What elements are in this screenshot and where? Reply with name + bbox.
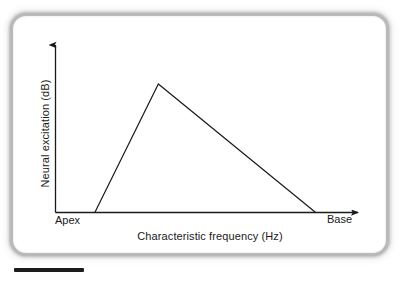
x-axis-apex-label: Apex <box>55 215 80 226</box>
scale-bar <box>14 268 84 272</box>
figure-page: Neural excitation (dB) Characteristic fr… <box>0 0 405 281</box>
x-axis-base-label: Base <box>327 214 352 225</box>
excitation-curve <box>95 84 316 213</box>
y-axis-label: Neural excitation (dB) <box>40 59 51 209</box>
x-axis-label: Characteristic frequency (Hz) <box>55 231 365 242</box>
